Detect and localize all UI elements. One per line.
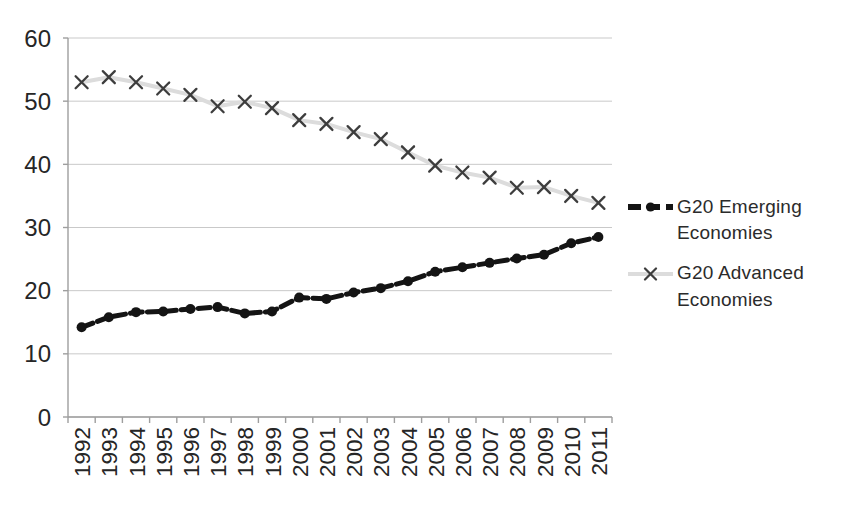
y-tick-label: 60 <box>24 25 51 52</box>
x-tick-label: 1994 <box>125 427 150 477</box>
emerging-line-sample-icon <box>627 201 674 213</box>
data-point-dot <box>185 304 195 314</box>
data-point-dot <box>485 258 495 268</box>
x-tick-label: 2005 <box>424 427 449 477</box>
legend-item-emerging: G20 Emerging Economies <box>627 194 842 246</box>
line-chart-figure: 0102030405060199219931994199519961997199… <box>0 0 850 509</box>
y-tick-label: 30 <box>24 214 51 241</box>
x-tick-label: 1992 <box>70 427 95 477</box>
data-point-dot <box>321 294 331 304</box>
x-tick-label: 2002 <box>342 427 367 477</box>
data-point-dot <box>403 276 413 286</box>
data-point-dot <box>267 307 277 317</box>
x-tick-label: 2007 <box>478 427 503 477</box>
legend-label-emerging: G20 Emerging Economies <box>677 194 825 246</box>
data-point-dot <box>512 253 522 263</box>
x-tick-label: 2000 <box>288 427 313 477</box>
data-point-dot <box>566 238 576 248</box>
x-tick-label: 2006 <box>451 427 476 477</box>
x-tick-label: 2004 <box>397 427 422 477</box>
legend-label-advanced: G20 Advanced Economies <box>677 260 825 312</box>
x-tick-label: 2003 <box>369 427 394 477</box>
data-point-dot <box>539 250 549 260</box>
y-tick-label: 0 <box>38 404 51 431</box>
x-tick-label: 2001 <box>315 427 340 477</box>
data-point-dot <box>104 312 114 322</box>
data-point-dot <box>213 302 223 312</box>
x-tick-label: 2008 <box>505 427 530 477</box>
x-tick-label: 1999 <box>261 427 286 477</box>
x-marker-line-sample-icon <box>627 267 674 281</box>
y-tick-label: 50 <box>24 88 51 115</box>
legend-item-advanced: G20 Advanced Economies <box>627 260 842 312</box>
data-point-dot <box>294 293 304 303</box>
x-tick-label: 1993 <box>97 427 122 477</box>
data-point-dot <box>240 308 250 318</box>
data-point-dot <box>376 283 386 293</box>
x-tick-label: 2011 <box>587 427 612 475</box>
y-tick-label: 40 <box>24 151 51 178</box>
data-point-dot <box>131 307 141 317</box>
y-tick-label: 10 <box>24 340 51 367</box>
x-tick-label: 1996 <box>179 427 204 477</box>
x-tick-label: 1997 <box>206 427 231 477</box>
data-point-dot <box>349 288 359 298</box>
x-tick-label: 1995 <box>152 427 177 477</box>
data-point-dot <box>430 267 440 277</box>
data-point-dot <box>158 307 168 317</box>
data-point-dot <box>77 322 87 332</box>
legend: G20 Emerging Economies G20 Advanced Econ… <box>627 194 842 313</box>
data-point-dot <box>593 232 603 242</box>
x-tick-label: 2009 <box>533 427 558 477</box>
y-tick-label: 20 <box>24 277 51 304</box>
x-tick-label: 1998 <box>233 427 258 477</box>
x-tick-label: 2010 <box>560 427 585 477</box>
data-point-dot <box>457 262 467 272</box>
